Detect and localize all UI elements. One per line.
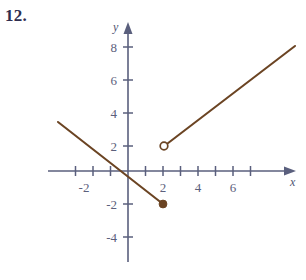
y-tick-label-neg4: -4 [106, 230, 117, 245]
x-tick-labels: -2 2 4 6 [79, 180, 237, 195]
y-tick-label-6: 6 [111, 73, 118, 88]
function-graph [58, 46, 295, 208]
coordinate-graph: x y -2 2 4 6 8 6 4 2 -2 -4 [0, 0, 306, 280]
y-tick-label-neg2: -2 [106, 197, 117, 212]
y-tick-label-2: 2 [111, 139, 118, 154]
open-endpoint-circle [160, 142, 168, 150]
y-tick-label-8: 8 [111, 40, 118, 55]
y-tick-label-4: 4 [111, 106, 118, 121]
x-tick-label-4: 4 [195, 180, 202, 195]
y-axis-arrowhead [124, 22, 133, 34]
x-tick-label-2: 2 [160, 180, 167, 195]
closed-endpoint-dot [159, 200, 167, 208]
x-tick-label-6: 6 [230, 180, 237, 195]
right-branch-segment [168, 46, 296, 144]
y-axis-label: y [112, 20, 119, 34]
figure-page: 12. [0, 0, 306, 280]
x-tick-label-neg2: -2 [79, 180, 90, 195]
y-tick-labels: 8 6 4 2 -2 -4 [106, 40, 117, 245]
x-axis-label: x [289, 175, 296, 189]
left-branch-segment [58, 122, 163, 204]
